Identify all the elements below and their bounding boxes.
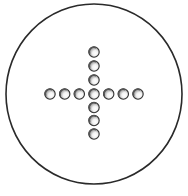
bead [89,129,99,139]
bead [89,75,99,85]
bead-cross [45,47,143,139]
bead [89,89,99,99]
bead [118,89,128,99]
bead [74,89,84,99]
bead [89,102,99,112]
bead-cross-figure [0,0,188,196]
bead [45,89,55,99]
bead [89,115,99,125]
bead [89,61,99,71]
bead [59,89,69,99]
bead [89,47,99,57]
bead [133,89,143,99]
bead [104,89,114,99]
figure-stage: Circular field containing a cross of bea… [0,0,188,196]
